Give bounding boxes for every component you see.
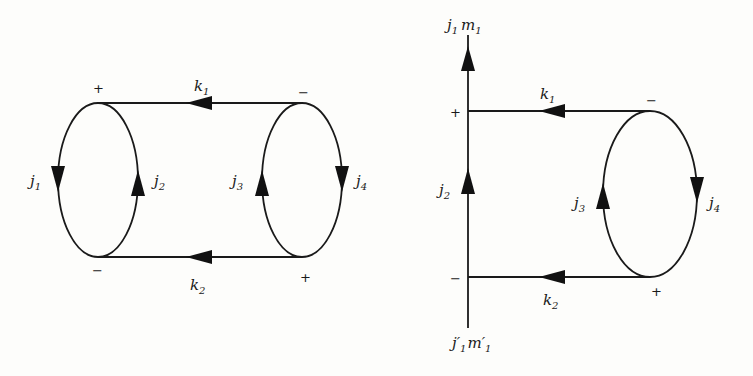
arrow-up-icon <box>461 168 475 194</box>
sign-bottom-right: + <box>651 284 662 299</box>
label-j4: j4 <box>706 194 720 214</box>
arrow-up-icon <box>461 46 475 71</box>
label-k1: k1 <box>540 85 555 105</box>
loop <box>603 111 697 277</box>
closed-diagram: k1 k2 j1 j2 j3 j4 + − − + <box>27 77 367 296</box>
arrow-left-icon <box>539 104 565 118</box>
label-bottom-end: j′1m′1 <box>449 334 491 354</box>
label-top-end: j1m1 <box>444 16 482 36</box>
sign-top-left: + <box>450 105 461 120</box>
arrow-down-icon <box>335 166 349 192</box>
label-j2: j2 <box>436 181 450 201</box>
label-k2: k2 <box>543 291 558 311</box>
sign-top-right: − <box>646 93 657 108</box>
arrow-up-icon <box>131 170 145 196</box>
label-j3: j3 <box>571 194 585 214</box>
arrow-left-icon <box>186 96 212 110</box>
label-j3: j3 <box>229 172 243 192</box>
arrow-down-icon <box>690 177 704 203</box>
sign-bottom-right: + <box>300 270 311 285</box>
sign-bottom-left: − <box>92 263 103 278</box>
arrow-up-icon <box>255 170 269 196</box>
arrow-down-icon <box>51 166 65 192</box>
label-j2: j2 <box>151 172 165 192</box>
label-k2: k2 <box>190 276 205 296</box>
arrow-up-icon <box>596 183 610 209</box>
left-loop <box>58 103 138 257</box>
arrow-left-icon <box>186 250 212 264</box>
label-j1: j1 <box>27 172 41 192</box>
right-loop <box>262 103 342 257</box>
sign-bottom-left: − <box>450 271 461 286</box>
arrow-left-icon <box>539 270 565 284</box>
label-k1: k1 <box>194 77 209 97</box>
sign-top-right: − <box>298 85 309 100</box>
sign-top-left: + <box>93 81 104 96</box>
diagram-canvas: k1 k2 j1 j2 j3 j4 + − − + j1m1 j′1m′1 k1… <box>0 0 753 376</box>
label-j4: j4 <box>353 172 367 192</box>
open-diagram: j1m1 j′1m′1 k1 k2 j2 j3 j4 + − − + <box>436 16 720 354</box>
